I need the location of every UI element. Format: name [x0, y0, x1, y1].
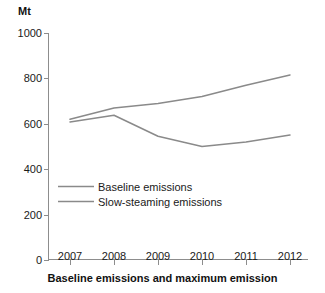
x-tick-label: 2009 [146, 250, 170, 262]
x-tick-label: 2008 [102, 250, 126, 262]
legend-entry-label: Slow-steaming emissions [98, 196, 222, 208]
chart-caption: Baseline emissions and maximum emission [0, 272, 325, 284]
x-tick-label: 2007 [58, 250, 82, 262]
chart-legend: Baseline emissionsSlow-steaming emission… [98, 179, 278, 209]
x-tick-label: 2012 [278, 250, 302, 262]
legend-entry: Baseline emissions [98, 179, 278, 194]
legend-entry-label: Baseline emissions [98, 181, 192, 193]
x-tick-label: 2011 [234, 250, 258, 262]
legend-entry: Slow-steaming emissions [98, 194, 278, 209]
x-axis-tick-labels: 200720082009201020112012 [0, 0, 325, 293]
emissions-line-chart: Mt 02004006008001000 2007200820092010201… [0, 0, 325, 293]
x-tick-label: 2010 [190, 250, 214, 262]
